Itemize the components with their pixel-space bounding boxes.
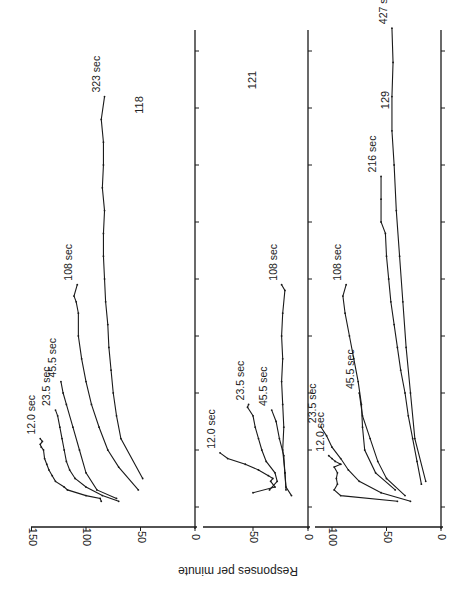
data-point <box>60 381 62 383</box>
data-point <box>377 461 379 463</box>
data-point <box>55 480 57 482</box>
data-point <box>258 469 260 471</box>
data-point <box>333 489 335 491</box>
data-point <box>340 463 342 465</box>
data-point <box>275 421 277 423</box>
data-point <box>270 480 272 482</box>
data-point <box>279 438 281 440</box>
data-point <box>380 492 382 494</box>
data-point <box>320 426 322 428</box>
data-point <box>75 301 77 303</box>
data-point <box>76 284 78 286</box>
data-point <box>410 500 412 502</box>
data-point <box>39 443 41 445</box>
data-point <box>265 461 267 463</box>
data-point <box>271 409 273 411</box>
data-point <box>65 404 67 406</box>
data-point <box>59 426 61 428</box>
value-tick-label: 50 <box>248 531 260 543</box>
data-point <box>105 301 107 303</box>
data-point <box>108 347 110 349</box>
data-point <box>394 489 396 491</box>
series-line <box>101 97 142 479</box>
data-point <box>380 198 382 200</box>
value-tick-label: 50 <box>136 531 148 543</box>
data-point <box>380 176 382 178</box>
data-point <box>358 480 360 482</box>
series-label: 45.5 sec <box>344 349 356 389</box>
data-point <box>104 278 106 280</box>
data-point <box>420 483 422 485</box>
panel-label: 118 <box>133 96 145 114</box>
data-point <box>42 441 44 443</box>
data-point <box>282 404 284 406</box>
data-point <box>388 278 390 280</box>
series-label: 216 sec <box>366 136 378 173</box>
data-point <box>285 489 287 491</box>
data-point <box>99 498 101 500</box>
data-point <box>85 472 87 474</box>
data-point <box>362 426 364 428</box>
data-point <box>328 455 330 457</box>
data-point <box>276 480 278 482</box>
data-point <box>386 478 388 480</box>
data-point <box>284 290 286 292</box>
data-point <box>349 335 351 337</box>
series-label: 23.5 sec <box>306 383 318 423</box>
data-point <box>77 312 79 314</box>
data-point <box>291 495 293 497</box>
data-point <box>334 461 336 463</box>
data-point <box>142 478 144 480</box>
data-point <box>337 472 339 474</box>
data-point <box>337 483 339 485</box>
data-point <box>272 478 274 480</box>
panel-129: 05010012912.0 sec23.5 sec45.5 sec108 sec… <box>306 0 448 546</box>
data-point <box>254 426 256 428</box>
value-tick-label: 100 <box>81 528 93 546</box>
data-point <box>63 449 65 451</box>
data-point <box>405 347 407 349</box>
data-point <box>118 500 120 502</box>
data-point <box>331 458 333 460</box>
data-point <box>393 324 395 326</box>
data-point <box>244 463 246 465</box>
data-point <box>392 62 394 64</box>
data-point <box>104 210 106 212</box>
data-point <box>44 458 46 460</box>
data-point <box>77 335 79 337</box>
data-point <box>393 164 395 166</box>
data-point <box>345 284 347 286</box>
data-point <box>248 404 250 406</box>
data-point <box>85 381 87 383</box>
data-point <box>112 392 114 394</box>
data-point <box>380 221 382 223</box>
data-point <box>404 495 406 497</box>
data-point <box>282 358 284 360</box>
series-line <box>392 28 426 481</box>
data-point <box>412 438 414 440</box>
data-point <box>103 141 105 143</box>
data-point <box>46 463 48 465</box>
data-point <box>98 426 100 428</box>
data-point <box>364 449 366 451</box>
series-label: 45.5 sec <box>46 338 58 378</box>
series-label: 108 sec <box>267 244 279 281</box>
data-point <box>227 458 229 460</box>
panel-121: 05012112.0 sec23.5 sec45.5 sec108 sec <box>203 30 315 543</box>
data-point <box>103 164 105 166</box>
data-point <box>333 466 335 468</box>
data-point <box>281 335 283 337</box>
data-point <box>274 472 276 474</box>
data-point <box>85 495 87 497</box>
data-point <box>61 438 63 440</box>
panel-118: 05010015011812.0 sec23.5 sec45.5 sec108 … <box>25 30 202 546</box>
data-point <box>74 478 76 480</box>
data-point <box>137 489 139 491</box>
value-tick-label: 0 <box>303 534 315 540</box>
data-point <box>414 438 416 440</box>
data-point <box>104 96 106 98</box>
data-point <box>284 472 286 474</box>
data-point <box>39 438 41 440</box>
data-point <box>57 415 59 417</box>
data-point <box>63 486 65 488</box>
